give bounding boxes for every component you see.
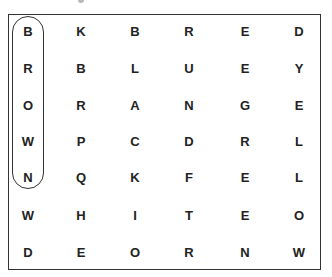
grid-cell: R xyxy=(225,132,265,152)
grid-cell: E xyxy=(279,96,319,116)
grid-cell: W xyxy=(279,243,319,263)
grid-cell: G xyxy=(225,96,265,116)
grid-cell: D xyxy=(8,243,48,263)
grid-cell: Q xyxy=(61,168,101,188)
grid-cell: H xyxy=(61,206,101,226)
grid-cell: U xyxy=(169,59,209,79)
grid-cell: W xyxy=(8,206,48,226)
grid-cell: R xyxy=(169,243,209,263)
grid-cell: W xyxy=(8,132,48,152)
grid-cell: F xyxy=(169,168,209,188)
grid-cell: R xyxy=(61,96,101,116)
grid-cell: C xyxy=(115,132,155,152)
grid-cell: N xyxy=(169,96,209,116)
grid-cell: B xyxy=(8,22,48,42)
grid-cell: Y xyxy=(279,59,319,79)
grid-cell: B xyxy=(115,22,155,42)
grid-cell: P xyxy=(61,132,101,152)
grid-cell: E xyxy=(225,168,265,188)
grid-cell: O xyxy=(115,243,155,263)
grid-cell: L xyxy=(115,59,155,79)
grid-cell: L xyxy=(279,168,319,188)
grid-cell: D xyxy=(279,22,319,42)
grid-cell: R xyxy=(169,22,209,42)
grid-cell: T xyxy=(169,206,209,226)
grid-cell: I xyxy=(115,206,155,226)
grid-cell: B xyxy=(61,59,101,79)
grid-cell: E xyxy=(225,206,265,226)
grid-cell: A xyxy=(115,96,155,116)
grid-cell: E xyxy=(61,243,101,263)
grid-cell: O xyxy=(279,206,319,226)
grid-cell: D xyxy=(169,132,209,152)
grid-cell: N xyxy=(225,243,265,263)
word-search-grid xyxy=(8,14,321,270)
grid-cell: K xyxy=(61,22,101,42)
grid-cell: O xyxy=(8,96,48,116)
grid-cell: K xyxy=(115,168,155,188)
grid-cell: N xyxy=(8,168,48,188)
grid-cell: E xyxy=(225,59,265,79)
cropped-text-fragment xyxy=(78,0,84,3)
grid-cell: R xyxy=(8,59,48,79)
grid-cell: L xyxy=(279,132,319,152)
grid-cell: E xyxy=(225,22,265,42)
